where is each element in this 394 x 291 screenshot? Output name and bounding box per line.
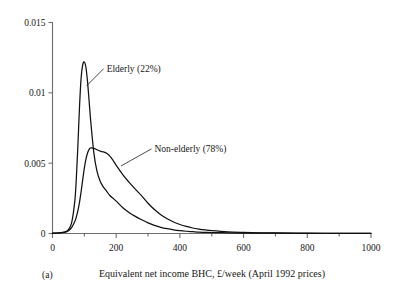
panel-label: (a) bbox=[42, 270, 53, 281]
x-tick-label: 1000 bbox=[362, 243, 381, 253]
x-tick-label: 0 bbox=[50, 243, 55, 253]
x-tick-label: 200 bbox=[109, 243, 124, 253]
x-tick-label: 600 bbox=[236, 243, 251, 253]
annotations-group: Elderly (22%) Non-elderly (78%) bbox=[87, 64, 227, 166]
x-axis-ticks: 02004006008001000 bbox=[50, 234, 381, 253]
x-tick-label: 400 bbox=[173, 243, 188, 253]
y-tick-label: 0.015 bbox=[24, 18, 46, 28]
figure-panel-a: 00.0050.010.015 02004006008001000 Elderl… bbox=[0, 0, 394, 291]
y-axis-ticks: 00.0050.010.015 bbox=[24, 18, 52, 239]
chart-canvas: 00.0050.010.015 02004006008001000 Elderl… bbox=[0, 0, 394, 291]
y-tick-label: 0.01 bbox=[29, 88, 46, 98]
axes-group bbox=[53, 22, 372, 234]
x-axis-title: Equivalent net income BHC, £/week (April… bbox=[99, 268, 325, 280]
y-tick-label: 0 bbox=[41, 229, 46, 239]
y-tick-label: 0.005 bbox=[24, 159, 46, 169]
annotation-non-elderly: Non-elderly (78%) bbox=[154, 144, 226, 155]
annotation-elderly: Elderly (22%) bbox=[107, 64, 161, 75]
x-tick-label: 800 bbox=[300, 243, 315, 253]
non-elderly-leader-line bbox=[121, 149, 151, 166]
series-curve-non-elderly bbox=[53, 148, 372, 233]
elderly-leader-line bbox=[87, 69, 104, 86]
